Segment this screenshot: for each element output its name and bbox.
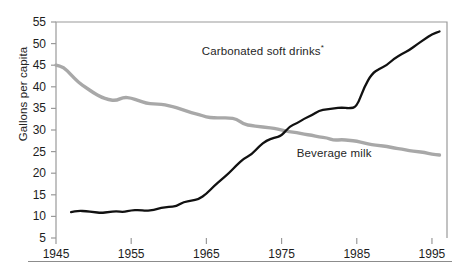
x-tick-label: 1985: [334, 248, 380, 260]
y-tick-label: 35: [20, 102, 46, 114]
y-tick-label: 30: [20, 124, 46, 136]
chart-figure: Gallons per capita 510152025303540455055…: [0, 0, 467, 273]
x-tick-label: 1975: [259, 248, 305, 260]
y-tick-label: 20: [20, 167, 46, 179]
series-layer: [56, 32, 439, 213]
x-tick-label: 1955: [108, 248, 154, 260]
y-tick-label: 15: [20, 189, 46, 201]
series-line-beverage-milk: [56, 65, 439, 155]
y-tick-label: 40: [20, 81, 46, 93]
chart-canvas: [0, 0, 467, 273]
y-tick-label: 25: [20, 146, 46, 158]
x-tick-label: 1965: [183, 248, 229, 260]
footer-rule: [28, 261, 452, 262]
footnote-marker: *: [321, 43, 324, 52]
y-tick-label: 50: [20, 38, 46, 50]
x-tick-label: 1995: [409, 248, 455, 260]
y-tick-label: 45: [20, 59, 46, 71]
series-label-soft-drinks-text: Carbonated soft drinks: [202, 45, 321, 57]
series-label-beverage-milk: Beverage milk: [297, 147, 372, 159]
y-tick-label: 55: [20, 16, 46, 28]
y-tick-label: 10: [20, 210, 46, 222]
series-label-soft-drinks: Carbonated soft drinks*: [202, 45, 324, 57]
y-tick-label: 5: [20, 232, 46, 244]
series-line-carbonated-soft-drinks: [71, 32, 439, 213]
x-tick-label: 1945: [33, 248, 79, 260]
